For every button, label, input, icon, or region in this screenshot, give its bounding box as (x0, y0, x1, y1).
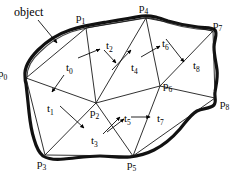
edge-p4-p6 (146, 18, 160, 86)
triangle-label-t0: t0 (66, 62, 73, 76)
object-outline-inner-shade (27, 18, 213, 77)
vertex-label-p7-subscript: 7 (219, 24, 223, 33)
triangle-label-t1: t1 (47, 103, 54, 117)
edge-p5-p3 (45, 155, 133, 156)
vertex-label-p0-subscript: 0 (4, 73, 8, 82)
vertex-label-p4: p4 (139, 2, 148, 16)
triangle-label-t3: t3 (91, 135, 98, 149)
edge-p0-p2 (26, 78, 96, 103)
triangle-label-t6: t6 (162, 38, 169, 52)
vertex-label-p8-subscript: 8 (226, 103, 230, 112)
triangle-label-t7-subscript: 7 (160, 118, 164, 127)
triangle-label-t1-subscript: 1 (50, 108, 54, 117)
object-triangulation-diagram (0, 0, 247, 178)
edge-p1-p2 (86, 28, 96, 103)
edge-p4-p7 (146, 18, 213, 31)
object-label: object (14, 6, 43, 18)
edge-p6-p5 (133, 86, 160, 156)
vertex-label-p0: p0 (0, 68, 7, 82)
triangle-label-t2: t2 (106, 40, 113, 54)
vertex-label-p7: p7 (213, 19, 222, 33)
leader-arrow-t6 (141, 46, 160, 57)
leader-arrow-t4 (112, 50, 131, 70)
leader-arrow-object (38, 20, 57, 43)
triangle-label-t8: t8 (193, 60, 200, 74)
edge-p2-p6 (96, 86, 160, 103)
triangle-label-t4: t4 (131, 62, 138, 76)
triangle-label-t7: t7 (157, 113, 164, 127)
edge-p2-p5 (96, 103, 133, 156)
vertex-label-p8: p8 (220, 98, 229, 112)
vertex-label-p5: p5 (127, 159, 136, 173)
vertex-label-p1: p1 (76, 12, 85, 26)
vertex-label-p5-subscript: 5 (133, 164, 137, 173)
triangle-label-t2-subscript: 2 (109, 45, 113, 54)
vertex-label-p2-subscript: 2 (96, 112, 100, 121)
vertex-label-p3: p3 (37, 158, 46, 172)
vertex-label-p3-subscript: 3 (43, 163, 47, 172)
triangle-label-t0-subscript: 0 (69, 67, 73, 76)
triangle-label-t6-subscript: 6 (165, 43, 169, 52)
leader-arrow-t5 (103, 117, 120, 134)
triangle-label-t5: t5 (124, 113, 131, 127)
leader-arrow-t1 (60, 106, 84, 128)
vertex-label-p1-subscript: 1 (82, 17, 86, 26)
vertex-label-p2: p2 (90, 107, 99, 121)
vertex-label-p6: p6 (163, 80, 172, 94)
triangle-label-t4-subscript: 4 (134, 67, 138, 76)
triangle-label-t8-subscript: 8 (196, 65, 200, 74)
vertex-label-p4-subscript: 4 (145, 7, 149, 16)
vertex-label-p6-subscript: 6 (169, 85, 173, 94)
edge-p8-p5 (133, 98, 215, 156)
triangle-label-t3-subscript: 3 (94, 140, 98, 149)
triangle-label-t5-subscript: 5 (127, 118, 131, 127)
